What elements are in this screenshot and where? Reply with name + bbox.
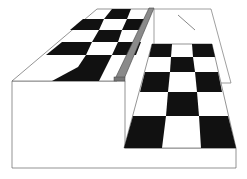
illusion-diagram — [0, 0, 247, 179]
